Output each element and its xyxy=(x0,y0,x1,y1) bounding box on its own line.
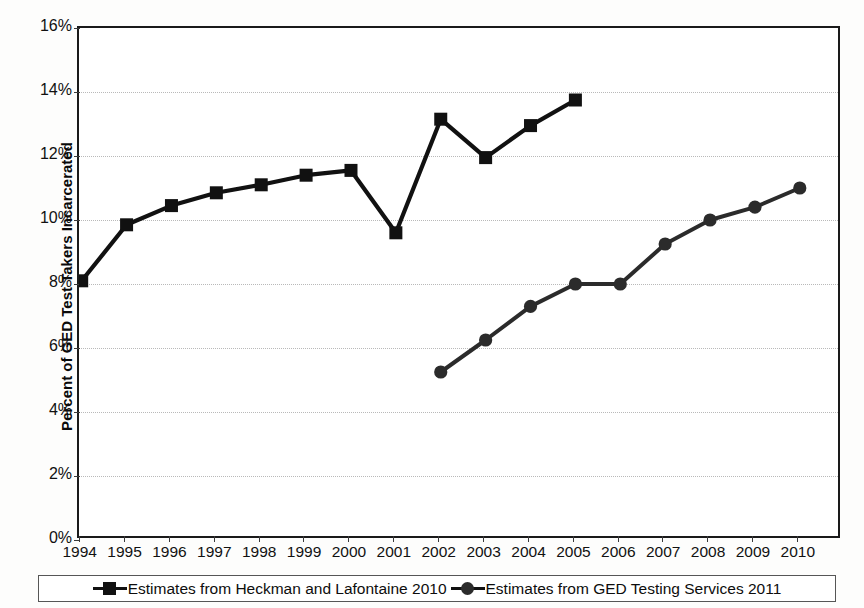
data-point-circle xyxy=(703,213,716,226)
legend-circle-marker-icon xyxy=(451,581,485,597)
x-axis-tick-labels: 1994199519961997199819992000200120022003… xyxy=(77,543,840,569)
legend-label: Estimates from Heckman and Lafontaine 20… xyxy=(127,580,447,598)
y-axis-tick-labels: 0%2%4%6%8%10%12%14%16% xyxy=(14,0,72,608)
chart-legend: Estimates from Heckman and Lafontaine 20… xyxy=(38,575,836,602)
data-point-square xyxy=(524,119,537,132)
y-tick-label: 14% xyxy=(14,81,72,99)
legend-entry[interactable]: Estimates from GED Testing Services 2011 xyxy=(451,580,782,598)
series-line xyxy=(82,100,576,281)
data-point-square xyxy=(300,169,313,182)
data-point-circle xyxy=(569,277,582,290)
y-tick-label: 8% xyxy=(14,273,72,291)
data-point-circle xyxy=(479,333,492,346)
data-point-square xyxy=(165,199,178,212)
y-tick-label: 12% xyxy=(14,145,72,163)
data-point-square xyxy=(434,113,447,126)
data-point-square xyxy=(389,226,402,239)
data-point-square xyxy=(344,164,357,177)
data-point-square xyxy=(120,218,133,231)
x-tick-label: 2010 xyxy=(768,543,828,561)
data-point-square xyxy=(79,274,88,287)
data-point-square xyxy=(210,186,223,199)
y-tick-label: 4% xyxy=(14,401,72,419)
chart-container: Percent of GED Test Takers Incarcerated … xyxy=(0,0,864,608)
data-point-square xyxy=(479,151,492,164)
data-point-circle xyxy=(748,201,761,214)
y-tick-label: 16% xyxy=(14,17,72,35)
series-layer xyxy=(79,28,842,540)
data-point-circle xyxy=(793,181,806,194)
data-point-circle xyxy=(659,237,672,250)
legend-square-marker-icon xyxy=(93,581,127,597)
y-tick-label: 6% xyxy=(14,337,72,355)
data-point-circle xyxy=(614,277,627,290)
plot-area xyxy=(77,26,840,538)
data-point-circle xyxy=(434,365,447,378)
legend-label: Estimates from GED Testing Services 2011 xyxy=(485,580,782,598)
data-point-circle xyxy=(524,300,537,313)
plot-inner xyxy=(79,28,838,536)
legend-entry[interactable]: Estimates from Heckman and Lafontaine 20… xyxy=(93,580,447,598)
y-tick-label: 2% xyxy=(14,465,72,483)
data-point-square xyxy=(569,94,582,107)
y-tick-label: 10% xyxy=(14,209,72,227)
data-point-square xyxy=(255,178,268,191)
